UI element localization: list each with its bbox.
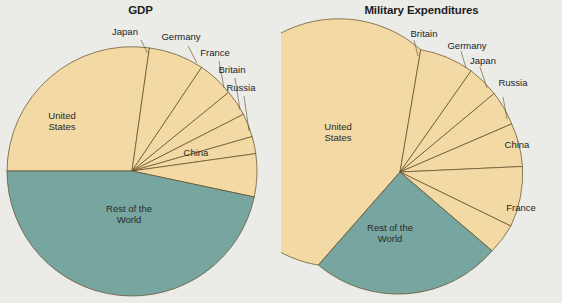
military-label-britain: Britain — [411, 28, 438, 39]
military-label-united-states: United States — [324, 121, 351, 143]
gdp-chart-panel: GDP Japan — [0, 0, 281, 303]
gdp-label-united-states: United States — [48, 110, 75, 132]
military-pie-svg — [281, 0, 562, 303]
military-label-rest-of-world: Rest of the World — [367, 222, 413, 244]
gdp-label-japan: Japan — [112, 26, 138, 37]
gdp-label-china: China — [184, 147, 209, 158]
military-label-russia: Russia — [498, 77, 527, 88]
gdp-label-germany: Germany — [161, 31, 200, 42]
gdp-label-russia: Russia — [226, 82, 255, 93]
military-chart-panel: Military Expenditures — [281, 0, 562, 303]
military-label-france: France — [506, 202, 536, 213]
gdp-label-france: France — [200, 47, 230, 58]
gdp-slice-united-states[interactable] — [7, 47, 149, 171]
figure-root: GDP Japan — [0, 0, 562, 303]
military-label-japan: Japan — [470, 55, 496, 66]
gdp-label-britain: Britain — [219, 64, 246, 75]
gdp-pie-svg — [0, 0, 281, 303]
gdp-slice-rest-of-world[interactable] — [7, 171, 254, 296]
gdp-label-rest-of-world: Rest of the World — [106, 203, 152, 225]
military-label-germany: Germany — [447, 40, 486, 51]
military-label-china: China — [505, 139, 530, 150]
